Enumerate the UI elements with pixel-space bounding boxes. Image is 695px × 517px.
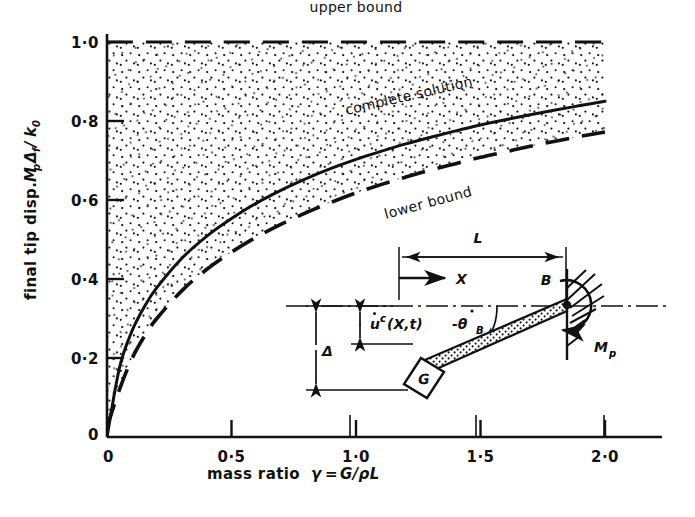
label-upper-bound: upper bound (310, 0, 403, 15)
inset-label-X: X (455, 271, 468, 287)
inset-label-B: B (541, 272, 552, 288)
x-tick-label: 0 (103, 448, 114, 466)
label-lower-bound: lower bound (383, 183, 474, 222)
inset-beam (420, 299, 567, 374)
x-axis-title-expression: G/ρL (340, 465, 380, 483)
inset-label-theta-dot-icon (470, 309, 473, 312)
inset-label-uc-sup: c (380, 313, 386, 324)
y-axis-title-Mp-sub: p (31, 163, 42, 172)
x-tick-labels: 00·51·01·52·0 (103, 448, 619, 466)
inset-label-uc-dot-icon (373, 312, 376, 315)
x-tick-label: 1·0 (342, 448, 370, 466)
inset-label-delta: Δ (321, 343, 333, 359)
inset-label-theta-group: -θ B (452, 309, 484, 336)
x-axis-title: mass ratio γ = G/ρL (207, 465, 380, 483)
y-tick-label: 0·4 (71, 271, 99, 289)
y-axis-title-slash: / (22, 140, 40, 149)
x-tick-label: 2·0 (591, 448, 619, 466)
inset-label-theta: -θ (452, 316, 468, 332)
inset-label-Mp-group: M p (594, 339, 616, 359)
figure-container: 00·20·40·60·81·0 00·51·01·52·0 upper bou… (0, 0, 695, 517)
inset-diagram: L X Δ u c (X,t) -θ (286, 230, 670, 437)
y-tick-label: 0·2 (71, 350, 99, 368)
inset-beam-body (420, 299, 567, 374)
x-tick-label: 1·5 (466, 448, 494, 466)
inset-label-uc-args: (X,t) (387, 316, 423, 332)
y-tick-label: 0 (88, 426, 99, 444)
inset-label-L: L (474, 230, 483, 246)
x-axis-title-equals: = (325, 465, 338, 483)
inset-beam-root-node (563, 301, 571, 309)
inset-label-Mp-M: M (594, 339, 608, 355)
x-axis-title-symbol: γ (311, 465, 323, 483)
figure-svg: 00·20·40·60·81·0 00·51·01·52·0 upper bou… (0, 0, 695, 517)
y-axis-title-k-sub: 0 (31, 120, 42, 127)
y-tick-label: 1·0 (71, 34, 99, 52)
x-axis-title-prefix: mass ratio (207, 465, 300, 483)
y-axis-title-formula: M p Δ f / k 0 (22, 120, 42, 182)
y-axis-title: final tip disp. (22, 182, 40, 300)
y-tick-labels: 00·20·40·60·81·0 (71, 34, 99, 444)
inset-label-uc-u: u (370, 316, 380, 332)
inset-label-G: G (418, 371, 430, 387)
x-tick-label: 0·5 (217, 448, 245, 466)
inset-label-Mp-sub: p (608, 348, 616, 359)
y-tick-label: 0·8 (71, 113, 99, 131)
inset-label-uc-group: u c (X,t) (370, 312, 423, 332)
y-axis-title-prefix: final tip disp. (22, 182, 40, 300)
y-tick-label: 0·6 (71, 192, 99, 210)
